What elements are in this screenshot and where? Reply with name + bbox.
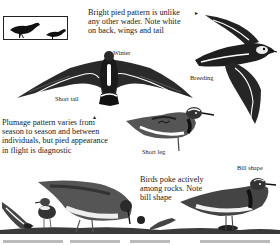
caption-line: individuals, but pied appearance [2,136,122,145]
plumage-caption: Plumage pattern varies from season to se… [2,118,122,155]
feeding-birds-illustration [0,168,280,236]
bird-silhouette-size-comparison-icon [4,17,69,41]
caption-line: Plumage pattern varies from [2,118,122,127]
caption-line: season to season and between [2,127,122,136]
standing-bird-illustration [122,103,222,155]
winter-flight-bird-illustration [15,50,190,105]
size-comparison-box [3,16,68,40]
cropped-text-line [0,238,280,245]
short-tail-label: Short tail [55,95,79,102]
breeding-label: Breeding [190,74,213,81]
short-leg-label: Short leg [142,148,165,155]
caption-line: in flight is diagnostic [2,146,122,155]
